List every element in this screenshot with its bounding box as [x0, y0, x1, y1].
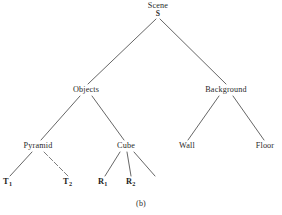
node-background: Background	[205, 86, 247, 95]
edge-background-floor	[233, 96, 264, 140]
node-wall-label: Wall	[179, 142, 195, 151]
node-scene-sublabel: S	[148, 10, 168, 18]
node-wall: Wall	[179, 142, 195, 151]
leaf-t1: T1	[3, 177, 12, 186]
node-cube-label: Cube	[117, 142, 135, 151]
edge-cube-r2	[127, 152, 131, 176]
edge-cube-unlabeled	[134, 152, 155, 176]
edge-cube-r1	[105, 152, 120, 176]
node-background-label: Background	[205, 86, 247, 95]
leaf-t1-subscript: 1	[9, 180, 12, 187]
edge-pyramid-t2	[44, 152, 68, 176]
node-floor-label: Floor	[256, 142, 275, 151]
tree-edges	[0, 0, 282, 215]
leaf-r1: R1	[98, 177, 107, 186]
leaf-r2: R2	[126, 177, 135, 186]
leaf-r1-subscript: 1	[104, 180, 107, 187]
node-floor: Floor	[256, 142, 275, 151]
edge-objects-cube	[92, 96, 124, 140]
edge-pyramid-t1	[10, 152, 32, 176]
node-cube: Cube	[117, 142, 135, 151]
edge-objects-pyramid	[41, 96, 80, 140]
node-objects-label: Objects	[73, 86, 99, 95]
edge-scene-background	[160, 19, 226, 84]
edge-background-wall	[188, 96, 219, 140]
node-scene: Scene S	[148, 2, 168, 18]
leaf-t1-symbol: T	[3, 177, 9, 186]
edge-scene-objects	[88, 19, 156, 84]
node-pyramid-label: Pyramid	[24, 142, 53, 151]
leaf-t2-symbol: T	[63, 177, 69, 186]
figure-caption: (b)	[136, 199, 146, 208]
leaf-r2-subscript: 2	[132, 180, 135, 187]
scene-parse-tree-figure: Scene S Objects Background Pyramid Cube …	[0, 0, 282, 215]
node-objects: Objects	[73, 86, 99, 95]
node-pyramid: Pyramid	[24, 142, 53, 151]
leaf-t2-subscript: 2	[69, 180, 72, 187]
leaf-t2: T2	[63, 177, 72, 186]
